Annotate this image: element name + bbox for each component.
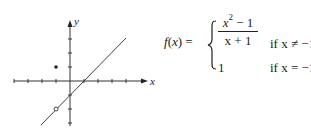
fraction: x2 − 1 x + 1	[218, 16, 258, 47]
condition-1: if x ≠ −1	[270, 37, 311, 50]
filled-point	[54, 65, 58, 69]
fraction-bar	[218, 31, 258, 32]
left-brace-icon	[207, 20, 217, 70]
condition-2: if x = −1	[270, 61, 311, 74]
case-2-value: 1	[218, 61, 225, 74]
formula-lhs: f(x) =	[164, 35, 193, 48]
open-point	[54, 107, 58, 111]
y-axis-label: y	[73, 15, 79, 27]
x-axis-label: x	[149, 75, 155, 87]
x-axis-arrow-icon	[141, 79, 148, 84]
function-graph: x y	[0, 0, 160, 136]
denominator: x + 1	[218, 34, 258, 47]
numerator: x2 − 1	[218, 16, 258, 30]
y-axis-arrow-icon	[68, 20, 73, 27]
